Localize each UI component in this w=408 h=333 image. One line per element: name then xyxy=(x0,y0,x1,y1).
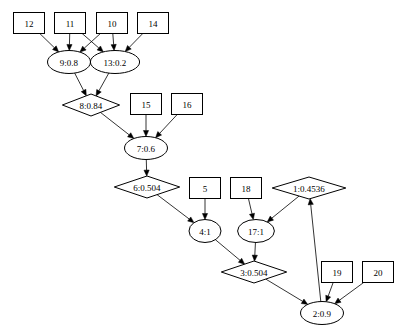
node-19[interactable]: 19 xyxy=(322,262,353,283)
edge-line xyxy=(248,199,252,214)
edge-14-to-13 xyxy=(125,34,143,52)
edge-6-to-4 xyxy=(157,195,194,223)
edge-line xyxy=(266,279,303,301)
edges-layer xyxy=(40,34,364,305)
edge-8-to-7 xyxy=(100,112,133,138)
node-7[interactable]: 7:0.6 xyxy=(125,137,168,160)
edge-2-to-1 xyxy=(308,199,321,302)
nodes-layer: 121110149:0.813:0.28:0.8415167:0.66:0.50… xyxy=(14,13,394,325)
node-5[interactable]: 5 xyxy=(190,178,221,199)
node-label: 4:1 xyxy=(199,227,211,237)
edge-1-to-17 xyxy=(267,196,299,222)
node-label: 5 xyxy=(203,184,208,194)
arrowhead-icon xyxy=(188,217,194,223)
node-12[interactable]: 12 xyxy=(14,13,45,34)
node-16[interactable]: 16 xyxy=(172,94,203,115)
node-10[interactable]: 10 xyxy=(97,13,128,34)
edge-10-to-13 xyxy=(111,34,116,51)
edge-line xyxy=(272,196,299,218)
node-label: 17:1 xyxy=(248,227,264,237)
arrowhead-icon xyxy=(267,216,273,222)
edge-12-to-9 xyxy=(40,34,59,52)
edge-line xyxy=(311,205,321,302)
node-15[interactable]: 15 xyxy=(131,94,162,115)
edge-line xyxy=(82,34,99,48)
node-label: 19 xyxy=(333,268,343,278)
node-label: 15 xyxy=(142,100,152,110)
node-label: 12 xyxy=(25,19,34,29)
node-3[interactable]: 3:0.504 xyxy=(221,261,286,283)
edge-line xyxy=(40,34,55,48)
node-1[interactable]: 1:0.4536 xyxy=(272,177,346,199)
node-label: 20 xyxy=(374,268,384,278)
edge-9-to-8 xyxy=(75,73,87,96)
arrowhead-icon xyxy=(249,213,254,219)
arrowhead-icon xyxy=(81,89,86,96)
edge-line xyxy=(328,283,333,297)
arrowhead-icon xyxy=(128,133,134,139)
edge-11-to-9 xyxy=(67,34,72,51)
edge-line xyxy=(255,242,256,255)
arrowhead-icon xyxy=(326,295,331,302)
node-2[interactable]: 2:0.9 xyxy=(301,302,344,325)
edge-15-to-7 xyxy=(143,115,148,137)
node-label: 14 xyxy=(149,19,159,29)
arrowhead-icon xyxy=(335,298,341,304)
node-label: 7:0.6 xyxy=(137,144,156,154)
edge-20-to-2 xyxy=(335,283,364,304)
node-20[interactable]: 20 xyxy=(363,262,394,283)
edge-line xyxy=(157,195,189,219)
arrowhead-icon xyxy=(202,214,207,220)
node-6[interactable]: 6:0.504 xyxy=(114,176,179,198)
edge-line xyxy=(160,115,178,134)
edge-line xyxy=(100,112,129,134)
edge-13-to-8 xyxy=(96,73,109,96)
node-4[interactable]: 4:1 xyxy=(189,220,221,243)
edge-4-to-3 xyxy=(215,240,244,264)
node-11[interactable]: 11 xyxy=(55,13,86,34)
edge-line xyxy=(75,73,84,90)
node-17[interactable]: 17:1 xyxy=(238,220,275,243)
edge-line xyxy=(113,34,114,45)
node-label: 2:0.9 xyxy=(313,309,332,319)
edge-19-to-2 xyxy=(326,283,333,302)
node-label: 10 xyxy=(108,19,118,29)
arrowhead-icon xyxy=(308,199,313,205)
node-13[interactable]: 13:0.2 xyxy=(90,51,139,74)
arrowhead-icon xyxy=(301,299,307,304)
node-label: 11 xyxy=(66,19,75,29)
node-label: 9:0.8 xyxy=(60,58,79,68)
node-8[interactable]: 8:0.84 xyxy=(62,94,119,116)
edge-line xyxy=(129,34,142,48)
edge-18-to-17 xyxy=(248,199,254,220)
node-14[interactable]: 14 xyxy=(138,13,169,34)
edge-line xyxy=(340,283,364,301)
edge-17-to-3 xyxy=(252,242,257,261)
node-18[interactable]: 18 xyxy=(231,178,262,199)
edge-line xyxy=(99,73,109,91)
arrowhead-icon xyxy=(67,44,72,50)
arrowhead-icon xyxy=(96,89,101,96)
node-label: 16 xyxy=(183,100,193,110)
node-label: 1:0.4536 xyxy=(293,184,325,194)
edge-3-to-2 xyxy=(266,279,308,304)
arrowhead-icon xyxy=(144,170,149,176)
node-label: 3:0.504 xyxy=(240,268,268,278)
arrowhead-icon xyxy=(111,44,116,50)
graph-canvas: 121110149:0.813:0.28:0.8415167:0.66:0.50… xyxy=(0,0,408,333)
node-9[interactable]: 9:0.8 xyxy=(48,51,91,74)
node-label: 6:0.504 xyxy=(133,183,161,193)
arrowhead-icon xyxy=(143,131,148,137)
node-label: 18 xyxy=(242,184,252,194)
edge-line xyxy=(84,34,100,49)
edge-7-to-6 xyxy=(144,159,149,176)
arrowhead-icon xyxy=(252,255,257,261)
edge-5-to-4 xyxy=(202,199,207,220)
node-label: 8:0.84 xyxy=(80,101,103,111)
edge-16-to-7 xyxy=(156,115,178,138)
edge-line xyxy=(215,240,240,261)
node-label: 13:0.2 xyxy=(104,58,127,68)
